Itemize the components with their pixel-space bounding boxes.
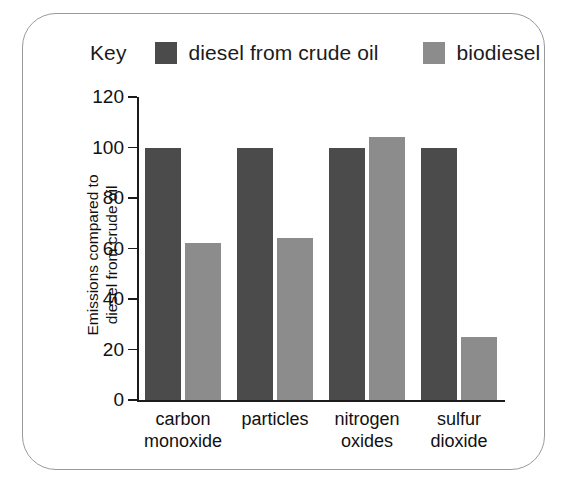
- y-tick-mark: [128, 248, 137, 250]
- x-category-label-line: carbon: [137, 408, 229, 430]
- legend-swatch-diesel: [155, 42, 177, 64]
- legend-key-label: Key: [90, 41, 127, 65]
- y-tick-label: 40: [103, 288, 124, 310]
- y-tick-mark: [128, 399, 137, 401]
- bar: [185, 243, 221, 400]
- x-category-label-line: nitrogen: [321, 408, 413, 430]
- y-tick-label: 20: [103, 339, 124, 361]
- bar: [145, 148, 181, 401]
- x-category-label-line: dioxide: [413, 430, 505, 452]
- y-tick-mark: [128, 147, 137, 149]
- y-tick-label: 60: [103, 238, 124, 260]
- x-category-label: nitrogenoxides: [321, 408, 413, 452]
- x-category-label-line: sulfur: [413, 408, 505, 430]
- y-tick-label: 0: [113, 389, 124, 411]
- y-tick-mark: [128, 298, 137, 300]
- legend-swatch-biodiesel: [423, 42, 445, 64]
- y-tick-mark: [128, 349, 137, 351]
- chart-legend: Key diesel from crude oil biodiesel: [90, 40, 540, 66]
- x-axis-category-labels: carbonmonoxideparticlesnitrogenoxidessul…: [137, 408, 505, 468]
- y-tick-label: 100: [92, 137, 124, 159]
- bar: [421, 148, 457, 401]
- plot-area: 020406080100120: [137, 97, 505, 400]
- y-tick-label: 120: [92, 86, 124, 108]
- y-tick-label: 80: [103, 187, 124, 209]
- y-tick-mark: [128, 96, 137, 98]
- legend-label-diesel: diesel from crude oil: [189, 41, 379, 65]
- x-category-label: carbonmonoxide: [137, 408, 229, 452]
- bar: [237, 148, 273, 401]
- bar: [461, 337, 497, 400]
- x-axis-line: [137, 400, 505, 402]
- x-category-label: sulfurdioxide: [413, 408, 505, 452]
- x-category-label-line: monoxide: [137, 430, 229, 452]
- x-category-label-line: oxides: [321, 430, 413, 452]
- bar: [369, 137, 405, 400]
- chart-figure: Key diesel from crude oil biodiesel Emis…: [0, 0, 566, 484]
- legend-entry-diesel: diesel from crude oil: [155, 41, 379, 65]
- legend-entry-biodiesel: biodiesel: [423, 41, 541, 65]
- bar: [277, 238, 313, 400]
- y-axis-line: [137, 97, 139, 401]
- y-tick-mark: [128, 197, 137, 199]
- x-category-label: particles: [229, 408, 321, 430]
- x-category-label-line: particles: [229, 408, 321, 430]
- bar: [329, 148, 365, 401]
- legend-label-biodiesel: biodiesel: [457, 41, 541, 65]
